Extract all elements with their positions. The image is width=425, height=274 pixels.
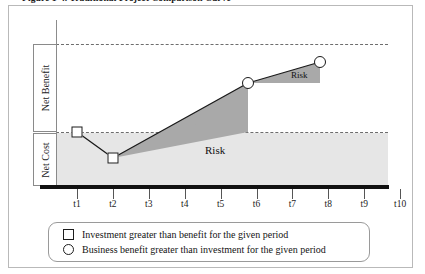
risk-label-upper: Risk <box>291 70 308 80</box>
figure-caption: Figure 1-4. Traditional Project Comparis… <box>22 0 231 3</box>
x-tick-label-t5: t5 <box>217 199 224 209</box>
x-tick-t4 <box>185 189 186 199</box>
x-tick-t2 <box>113 189 114 199</box>
figure-container: Figure 1-4. Traditional Project Comparis… <box>0 0 425 274</box>
x-tick-t1 <box>77 189 78 199</box>
square-marker-icon <box>63 229 74 240</box>
x-tick-label-t1: t1 <box>73 199 80 209</box>
axis-label-net-benefit-text: Net Benefit <box>40 65 51 111</box>
axis-label-net-cost-text: Net Cost <box>40 142 51 177</box>
x-tick-label-t7: t7 <box>289 199 296 209</box>
x-tick-label-t3: t3 <box>145 199 152 209</box>
x-tick-t9 <box>364 189 365 199</box>
data-point-t2-square[interactable] <box>108 153 119 164</box>
axis-label-net-benefit: Net Benefit <box>33 44 57 132</box>
x-tick-t8 <box>328 189 329 199</box>
x-axis-baseline <box>40 185 389 189</box>
legend-item-investment-label: Investment greater than benefit for the … <box>82 229 288 240</box>
x-tick-label-t4: t4 <box>181 199 188 209</box>
x-tick-label-t10: t10 <box>394 199 406 209</box>
x-tick-label-t6: t6 <box>253 199 260 209</box>
x-tick-t5 <box>221 189 222 199</box>
legend-item-investment: Investment greater than benefit for the … <box>63 229 288 240</box>
breakeven-dashed-reference-line <box>56 132 388 133</box>
axis-label-net-cost: Net Cost <box>33 133 57 186</box>
data-point-t1-square[interactable] <box>72 127 83 138</box>
x-tick-label-t8: t8 <box>325 199 332 209</box>
upper-dashed-reference-line <box>56 44 388 45</box>
legend-item-benefit: Business benefit greater than investment… <box>63 244 326 255</box>
data-point-t8-circle[interactable] <box>314 56 326 68</box>
x-tick-label-t9: t9 <box>360 199 367 209</box>
circle-marker-icon <box>63 244 74 255</box>
legend-item-benefit-label: Business benefit greater than investment… <box>82 244 326 255</box>
x-tick-t3 <box>149 189 150 199</box>
x-tick-t10 <box>400 189 401 199</box>
x-tick-t6 <box>257 189 258 199</box>
risk-label-lower: Risk <box>205 144 225 156</box>
data-point-t6-circle[interactable] <box>242 77 254 89</box>
x-tick-label-t2: t2 <box>109 199 116 209</box>
legend: Investment greater than benefit for the … <box>48 222 370 262</box>
x-tick-t7 <box>292 189 293 199</box>
